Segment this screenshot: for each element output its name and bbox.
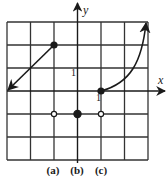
part-label-a: (a) xyxy=(47,164,60,176)
point-a-closed xyxy=(50,41,57,48)
x-tick-one: 1 xyxy=(96,92,101,103)
point-b-closed xyxy=(74,110,81,117)
y-tick-one: 1 xyxy=(71,67,76,78)
x-axis-label: x xyxy=(157,73,164,87)
y-axis-label: y xyxy=(82,3,89,17)
curve-c xyxy=(101,23,146,91)
part-label-b: (b) xyxy=(70,164,84,176)
graph-diagram: y x 1 1 (a) (b) (c) xyxy=(0,0,167,176)
point-a-open xyxy=(51,111,56,116)
point-c-open xyxy=(98,111,103,116)
part-label-c: (c) xyxy=(95,164,108,176)
